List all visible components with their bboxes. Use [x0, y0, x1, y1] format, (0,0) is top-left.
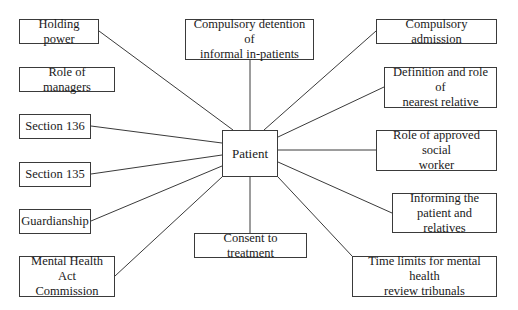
node-guardianship: Guardianship: [19, 209, 91, 234]
node-section-135: Section 135: [19, 162, 91, 187]
node-informing-patient: Informing the patient and relatives: [392, 193, 497, 233]
node-time-limits: Time limits for mental health review tri…: [352, 256, 497, 297]
connector-informing-patient: [278, 162, 392, 213]
node-mental-health-act-commission: Mental Health Act Commission: [19, 256, 115, 297]
node-nearest-relative: Definition and role of nearest relative: [384, 67, 497, 108]
connector-section-136: [91, 126, 222, 143]
connector-mental-health-act-commission: [115, 177, 222, 276]
node-section-136: Section 136: [19, 114, 91, 139]
connector-nearest-relative: [278, 87, 384, 137]
center-node-patient: Patient: [222, 130, 278, 177]
node-compulsory-admission: Compulsory admission: [376, 19, 497, 44]
node-approved-social-worker: Role of approved social worker: [376, 130, 497, 171]
node-holding-power: Holding power: [19, 19, 99, 44]
connector-guardianship: [91, 166, 222, 221]
node-compulsory-detention: Compulsory detention of informal in-pati…: [185, 19, 314, 60]
node-role-of-managers: Role of managers: [19, 67, 115, 92]
connector-section-135: [91, 155, 222, 174]
mind-map-diagram: Patient Holding power Role of managers S…: [0, 0, 518, 310]
node-consent-to-treatment: Consent to treatment: [194, 233, 307, 258]
